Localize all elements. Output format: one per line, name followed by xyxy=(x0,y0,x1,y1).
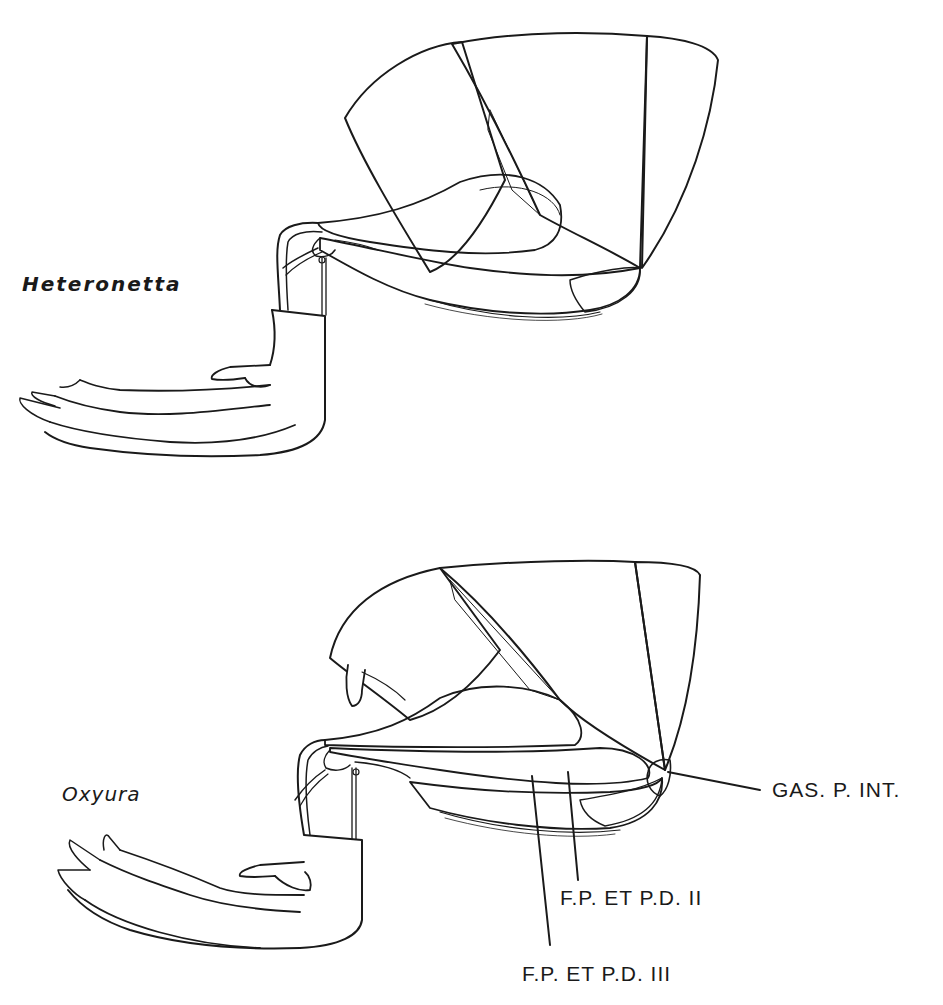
leader-line-fp-et-pd-ii xyxy=(568,772,578,880)
annotation-fp-et-pd-iii: F.P. ET P.D. III xyxy=(522,962,671,986)
annotation-fp-et-pd-ii: F.P. ET P.D. II xyxy=(560,886,702,910)
annotation-gas-p-int: GAS. P. INT. xyxy=(772,778,900,802)
heteronetta-drawing xyxy=(20,33,718,456)
figure-drawings xyxy=(0,0,943,1005)
leader-line-fp-et-pd-iii xyxy=(532,776,550,945)
taxon-label-heteronetta: Heteronetta xyxy=(22,272,181,296)
anatomical-figure: Heteronetta Oxyura GAS. P. INT. F.P. ET … xyxy=(0,0,943,1005)
leader-line-gas-p-int xyxy=(668,772,760,790)
taxon-label-oxyura: Oxyura xyxy=(62,782,141,806)
